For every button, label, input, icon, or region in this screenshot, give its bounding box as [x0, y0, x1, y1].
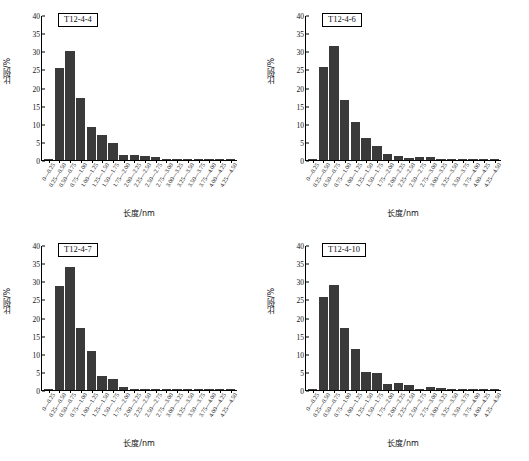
bar	[329, 46, 338, 160]
y-axis-tick-label: 5	[285, 139, 304, 147]
y-axis-tick-label: 40	[285, 243, 304, 251]
panel-title: T12-4-6	[322, 13, 362, 27]
bar	[351, 349, 360, 390]
bar	[351, 122, 360, 160]
y-axis-tick-label: 35	[21, 31, 40, 39]
bar	[361, 372, 370, 390]
y-axis-tick-label: 10	[21, 351, 40, 359]
y-axis-tick-label: 35	[285, 31, 304, 39]
y-axis-title: 比例/%	[4, 58, 18, 84]
bar	[340, 328, 349, 390]
plot-area: 0510152025303540	[305, 246, 501, 391]
y-axis-tick-label: 5	[285, 369, 304, 377]
y-axis-tick-label: 25	[285, 297, 304, 305]
y-axis-tick-label: 15	[21, 333, 40, 341]
y-axis-tick-label: 40	[21, 243, 40, 251]
panel-title: T12-4-4	[58, 13, 98, 27]
y-axis-tick-label: 30	[21, 49, 40, 57]
bar	[55, 68, 64, 160]
y-axis-tick-label: 20	[285, 85, 304, 93]
bar	[372, 373, 381, 390]
y-axis-title: 比例/%	[268, 58, 282, 84]
y-axis-tick-label: 0	[285, 158, 304, 166]
bar	[65, 267, 74, 390]
y-axis-tick-label: 5	[21, 139, 40, 147]
y-axis-title: 比例/%	[268, 288, 282, 314]
x-axis-title: 长度/nm	[41, 207, 237, 218]
x-axis-title: 长度/nm	[305, 437, 501, 448]
y-axis-tick-label: 10	[285, 351, 304, 359]
y-axis-tick-label: 20	[21, 85, 40, 93]
y-axis-tick-label: 25	[285, 67, 304, 75]
y-axis-tick-label: 5	[21, 369, 40, 377]
plot-area: 0510152025303540	[41, 16, 237, 161]
y-axis-tick-label: 15	[285, 103, 304, 111]
y-axis-tick-label: 25	[21, 67, 40, 75]
y-axis-tick-label: 0	[21, 388, 40, 396]
bar	[76, 328, 85, 390]
y-axis-tick-label: 25	[21, 297, 40, 305]
bar	[372, 146, 381, 160]
bar	[340, 100, 349, 160]
bar-series	[42, 16, 237, 160]
y-axis-tick-label: 20	[21, 315, 40, 323]
histogram-figure: 比例/%05101520253035400—0.250.25—0.500.50—…	[0, 0, 529, 461]
bar	[319, 67, 328, 160]
y-axis-tick-label: 35	[21, 261, 40, 269]
y-axis-tick-label: 35	[285, 261, 304, 269]
panel-title: T12-4-10	[322, 243, 366, 257]
bar	[87, 127, 96, 160]
y-axis-tick-label: 40	[285, 13, 304, 21]
bar	[87, 351, 96, 390]
bar	[361, 138, 370, 160]
bar	[108, 143, 117, 160]
chart-panel-t12-4-10: 比例/%05101520253035400—0.250.25—0.500.50—…	[264, 230, 529, 461]
y-axis-tick-label: 40	[21, 13, 40, 21]
chart-panel-t12-4-6: 比例/%05101520253035400—0.250.25—0.500.50—…	[264, 0, 529, 230]
y-axis-tick-label: 20	[285, 315, 304, 323]
x-axis-title: 长度/nm	[41, 437, 237, 448]
y-axis-tick-label: 30	[285, 49, 304, 57]
y-axis-tick-label: 10	[285, 121, 304, 129]
x-axis-tick-labels: 0—0.250.25—0.500.50—0.750.75—1.001.00—1.…	[41, 392, 241, 438]
x-axis-title: 长度/nm	[305, 207, 501, 218]
bar	[76, 98, 85, 160]
bar	[319, 297, 328, 390]
y-axis-tick-label: 30	[21, 279, 40, 287]
x-axis-tick-labels: 0—0.250.25—0.500.50—0.750.75—1.001.00—1.…	[305, 392, 505, 438]
bar	[65, 51, 74, 160]
y-axis-tick-label: 0	[21, 158, 40, 166]
plot-area: 0510152025303540	[41, 246, 237, 391]
bar-series	[306, 246, 501, 390]
plot-area: 0510152025303540	[305, 16, 501, 161]
bar	[97, 135, 106, 160]
bar	[329, 285, 338, 390]
chart-panel-t12-4-7: 比例/%05101520253035400—0.250.25—0.500.50—…	[0, 230, 264, 461]
y-axis-tick-label: 0	[285, 388, 304, 396]
bar	[97, 376, 106, 390]
chart-panel-t12-4-4: 比例/%05101520253035400—0.250.25—0.500.50—…	[0, 0, 264, 230]
bar	[55, 286, 64, 390]
y-axis-tick-label: 30	[285, 279, 304, 287]
y-axis-tick-label: 15	[21, 103, 40, 111]
panel-title: T12-4-7	[58, 243, 98, 257]
x-axis-tick-labels: 0—0.250.25—0.500.50—0.750.75—1.001.00—1.…	[41, 162, 241, 208]
y-axis-title: 比例/%	[4, 288, 18, 314]
bar	[108, 379, 117, 390]
y-axis-tick-label: 15	[285, 333, 304, 341]
bar-series	[306, 16, 501, 160]
x-axis-tick-labels: 0—0.250.25—0.500.50—0.750.75—1.001.00—1.…	[305, 162, 505, 208]
y-axis-tick-label: 10	[21, 121, 40, 129]
bar-series	[42, 246, 237, 390]
